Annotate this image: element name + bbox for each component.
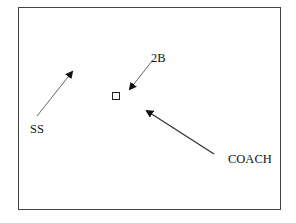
label-2b: 2B: [151, 52, 166, 65]
2b-arrow-icon: [130, 61, 152, 89]
label-ss: SS: [30, 123, 44, 136]
coach-arrow-icon: [147, 111, 214, 154]
label-coach: COACH: [228, 153, 272, 166]
ss-arrow-icon: [37, 72, 72, 116]
diagram-canvas: [0, 0, 296, 223]
base-square-icon: [113, 93, 120, 100]
